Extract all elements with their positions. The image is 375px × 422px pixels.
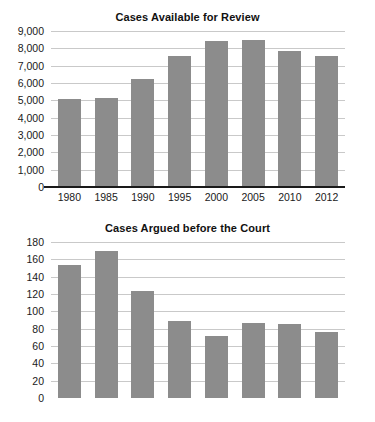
y-axis-tick-label: 80 [32,324,44,334]
y-axis-tick-label: 160 [26,254,44,264]
x-axis-tick-label: 2010 [270,191,310,203]
y-axis-tick-label: 120 [26,289,44,299]
bar-1995 [168,321,191,398]
x-axis-tick-label: 1995 [160,191,200,203]
bar-2005 [242,323,265,398]
y-axis-tick-label: 60 [32,341,44,351]
y-axis-tick-label: 1,000 [18,165,44,175]
chart-cases-available: Cases Available for Review 01,0002,0003,… [0,0,375,211]
bar-1990 [131,291,154,398]
y-axis-tick-label: 2,000 [18,147,44,157]
bar-series-cases-available [51,31,345,187]
y-axis-tick-label: 100 [26,306,44,316]
y-axis-tick-label: 140 [26,272,44,282]
plot-area-cases-available [51,31,345,187]
bar-1985 [95,98,118,187]
y-axis-tick-label: 4,000 [18,113,44,123]
y-axis-tick-label: 3,000 [18,130,44,140]
x-axis-tick-label: 2000 [196,191,236,203]
chart-cases-argued: Cases Argued before the Court 0204060801… [0,211,375,422]
y-axis-tick-label: 180 [26,237,44,247]
x-axis-line-cases-available [44,186,345,188]
bar-1995 [168,56,191,187]
bar-1980 [58,265,81,398]
plot-area-cases-argued [51,242,345,398]
x-axis-labels-cases-available: 19801985199019952000200520102012 [51,191,345,205]
x-axis-tick-label: 1980 [49,191,89,203]
bar-1985 [95,251,118,398]
bar-1980 [58,99,81,187]
y-axis-tick-label: 8,000 [18,43,44,53]
bar-2012 [315,56,338,187]
y-axis-tick-label: 9,000 [18,26,44,36]
bar-2005 [242,40,265,187]
bar-2012 [315,332,338,398]
x-axis-tick-label: 1990 [123,191,163,203]
x-axis-tick-label: 2012 [307,191,347,203]
chart-title-cases-argued: Cases Argued before the Court [0,222,375,235]
bar-series-cases-argued [51,242,345,398]
y-axis-tick-label: 40 [32,358,44,368]
bar-1990 [131,79,154,187]
y-axis-tick-label: 20 [32,376,44,386]
bar-2000 [205,41,228,187]
y-axis-labels-cases-available: 01,0002,0003,0004,0005,0006,0007,0008,00… [0,31,47,187]
y-axis-tick-label: 6,000 [18,78,44,88]
figure-root: Cases Available for Review 01,0002,0003,… [0,0,375,422]
x-axis-tick-label: 1985 [86,191,126,203]
bar-2010 [278,51,301,187]
bar-2000 [205,336,228,398]
y-axis-labels-cases-argued: 020406080100120140160180 [0,242,47,398]
y-axis-tick-label: 0 [38,393,44,403]
y-axis-tick-label: 5,000 [18,95,44,105]
x-axis-tick-label: 2005 [233,191,273,203]
chart-title-cases-available: Cases Available for Review [0,11,375,24]
y-axis-tick-label: 7,000 [18,61,44,71]
bar-2010 [278,324,301,398]
